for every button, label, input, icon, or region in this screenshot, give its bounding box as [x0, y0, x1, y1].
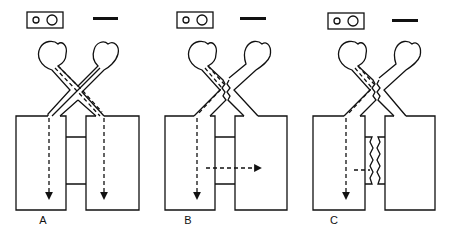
right-chamber — [385, 116, 435, 210]
left-chamber — [165, 116, 215, 210]
right-chamber — [86, 116, 139, 210]
sealed-bridge-membranes — [365, 137, 385, 184]
panel-a — [16, 12, 139, 210]
slide-icon — [27, 12, 63, 28]
panel-label-a: A — [33, 214, 53, 226]
crossing-channels — [339, 41, 421, 116]
left-chamber — [16, 116, 66, 210]
bridge — [215, 137, 235, 184]
crossing-channels — [39, 41, 119, 116]
scale-bar — [240, 17, 266, 20]
scale-bar — [392, 19, 418, 22]
diagram-canvas — [0, 0, 454, 231]
slide-icon — [328, 13, 364, 29]
panel-label-b: B — [178, 214, 198, 226]
right-chamber — [235, 116, 287, 210]
crossing-channels — [189, 41, 271, 116]
panel-b — [165, 12, 287, 210]
left-chamber — [313, 116, 365, 210]
panel-label-c: C — [324, 214, 344, 226]
bridge — [66, 137, 86, 184]
slide-icon — [177, 12, 213, 28]
panel-c — [313, 13, 435, 210]
scale-bar — [93, 17, 118, 20]
